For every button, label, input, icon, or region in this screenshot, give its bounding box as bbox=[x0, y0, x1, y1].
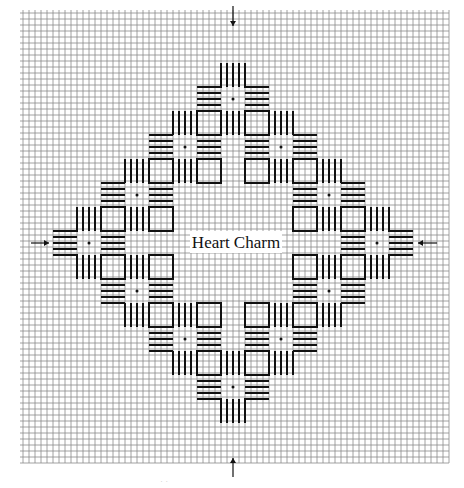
center-dot bbox=[376, 242, 379, 245]
motif bbox=[197, 63, 269, 135]
center-dot bbox=[280, 338, 283, 341]
center-dot bbox=[328, 194, 331, 197]
center-dot bbox=[232, 386, 235, 389]
motif bbox=[293, 255, 365, 327]
stitch-chart: Heart Charm · · bbox=[0, 0, 464, 488]
center-dot bbox=[328, 290, 331, 293]
chart-title: Heart Charm bbox=[192, 233, 280, 252]
motif bbox=[101, 255, 173, 327]
center-dot bbox=[136, 194, 139, 197]
center-dot bbox=[88, 242, 91, 245]
arrow-icon bbox=[230, 6, 236, 26]
motif bbox=[197, 351, 269, 423]
motif bbox=[245, 303, 317, 375]
center-dot bbox=[232, 98, 235, 101]
motif bbox=[341, 207, 413, 279]
arrow-head bbox=[230, 458, 236, 463]
motif bbox=[101, 159, 173, 231]
motif bbox=[149, 111, 221, 183]
arrow-icon bbox=[230, 458, 236, 477]
center-dot bbox=[280, 146, 283, 149]
center-dot bbox=[184, 146, 187, 149]
motif bbox=[245, 111, 317, 183]
center-dot bbox=[184, 338, 187, 341]
motif bbox=[149, 303, 221, 375]
footer-note: · · bbox=[160, 476, 168, 486]
center-dot bbox=[136, 290, 139, 293]
motif bbox=[293, 159, 365, 231]
motif bbox=[53, 207, 125, 279]
chart-canvas: Heart Charm bbox=[0, 0, 464, 488]
